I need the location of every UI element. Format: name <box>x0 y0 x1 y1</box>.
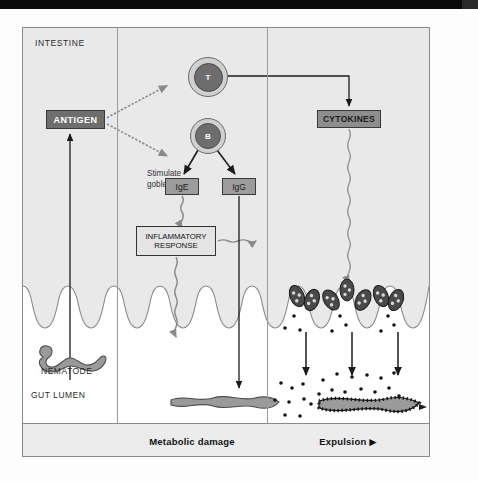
cytokines-to-goblet-wavy-arrow <box>348 129 351 283</box>
footer-band: Metabolic damage Expulsion ▶ <box>23 423 429 456</box>
antigen-node[interactable]: ANTIGEN <box>46 110 105 129</box>
villi-outline <box>23 286 429 328</box>
antigen-to-bcell-wavy-arrow <box>107 124 167 156</box>
t-cell-node[interactable]: T <box>188 57 228 97</box>
goblet-cell-cluster-3 <box>370 283 406 313</box>
damaged-worm-icon <box>171 396 279 408</box>
goblet-cell-icon <box>340 279 354 301</box>
bcell-to-igg-arrow <box>217 150 235 174</box>
cytokines-node[interactable]: CYTOKINES <box>317 110 381 128</box>
goblet-cell-cluster-2 <box>319 279 374 313</box>
goblet-cell-icon <box>319 287 343 313</box>
igg-node[interactable]: IgG <box>222 178 256 195</box>
scan-artifact-bar <box>0 0 462 9</box>
footer-label-metabolic-damage: Metabolic damage <box>117 436 267 447</box>
goblet-cell-cluster-1 <box>286 283 322 313</box>
panel-divider-1 <box>117 28 118 456</box>
b-cell-label: B <box>195 123 221 149</box>
goblet-cell-icon <box>352 287 375 313</box>
diagram-frame: INTESTINE NEMATODE GUT LUMEN Stimulate g… <box>22 27 430 457</box>
ige-to-inflammatory-wavy-arrow <box>181 196 183 228</box>
scan-artifact-bar-tail <box>462 0 478 9</box>
inflammatory-to-mucosa-wavy-arrow <box>175 257 177 337</box>
antigen-to-tcell-wavy-arrow <box>107 86 167 118</box>
inflammatory-to-igg-path-wavy-arrow <box>218 240 256 242</box>
goblet-cell-icon <box>385 287 406 313</box>
b-cell-node[interactable]: B <box>190 118 226 154</box>
expelled-worm-icon <box>319 398 419 412</box>
ige-node[interactable]: IgE <box>165 178 199 195</box>
t-cell-label: T <box>194 63 223 92</box>
goblet-cell-icon <box>302 287 323 312</box>
footer-label-expulsion: Expulsion ▶ <box>267 436 429 447</box>
goblet-cell-icon <box>286 283 307 309</box>
expulsion-direction-arrow <box>419 404 427 410</box>
nematode-label: NEMATODE <box>41 366 92 376</box>
intestine-label: INTESTINE <box>35 38 85 48</box>
gut-lumen-label: GUT LUMEN <box>31 390 85 400</box>
panel-divider-2 <box>267 28 268 456</box>
inflammatory-response-node[interactable]: INFLAMMATORY RESPONSE <box>136 226 216 256</box>
tcell-to-cytokines-arrow <box>227 76 349 106</box>
goblet-cell-icon <box>370 283 391 309</box>
mucus-granules <box>273 314 401 418</box>
